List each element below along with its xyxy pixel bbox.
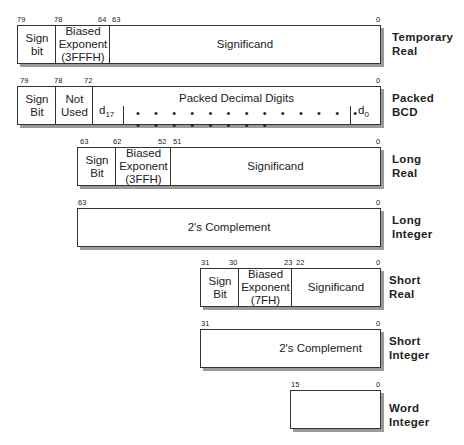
field-text: Bit xyxy=(25,106,48,119)
field-text: (7FH) xyxy=(241,294,290,307)
temporary-real-box: Signbit BiasedExponent(3FFFH) Significan… xyxy=(17,25,381,64)
bit-label-64: 64 xyxy=(98,16,106,24)
field-text: Exponent xyxy=(119,160,168,173)
short-real-box: SignBit BiasedExponent(7FH) Significand xyxy=(200,268,381,307)
bit-label-23: 23 xyxy=(284,259,292,267)
format-label: Temporary Real xyxy=(392,30,453,58)
digit-divider xyxy=(123,106,124,125)
bit-label-0: 0 xyxy=(376,259,380,267)
label-line: Short xyxy=(389,273,421,287)
bit-label-31: 31 xyxy=(201,259,209,267)
field-text: (3FFFH) xyxy=(59,51,108,64)
long-real-box: SignBit BiasedExponent(3FFH) Significand xyxy=(77,147,381,186)
significand-field: Significand xyxy=(171,148,380,185)
bit-label-0: 0 xyxy=(376,381,380,389)
sign-field: SignBit xyxy=(201,269,239,306)
digit-d17: d17 xyxy=(99,104,114,119)
label-line: Real xyxy=(389,287,421,301)
long-integer-box: 2's Complement xyxy=(77,208,381,247)
format-label: Short Integer xyxy=(389,334,429,362)
digit-divider xyxy=(350,106,351,125)
field-text: Bit xyxy=(208,288,231,301)
label-line: BCD xyxy=(392,105,434,119)
exponent-field: BiasedExponent(7FH) xyxy=(239,269,292,306)
field-text: Bit xyxy=(85,167,108,180)
format-label: Long Real xyxy=(392,152,421,180)
label-line: Short xyxy=(389,334,429,348)
bit-label-30: 30 xyxy=(229,259,237,267)
bit-label-78: 78 xyxy=(54,77,62,85)
field-text: Significand xyxy=(247,160,303,173)
bit-label-72: 72 xyxy=(84,77,92,85)
sign-field: Signbit xyxy=(18,26,56,63)
field-text: 0 xyxy=(364,110,368,119)
significand-field: Significand xyxy=(110,26,380,63)
bit-label-63: 63 xyxy=(78,199,86,207)
label-line: Long xyxy=(392,213,432,227)
field-text: Used xyxy=(61,106,88,119)
bit-label-22: 22 xyxy=(296,259,304,267)
field-text: Sign xyxy=(25,32,48,45)
digit-d0: d0 xyxy=(358,104,369,119)
bit-label-63: 63 xyxy=(80,138,88,146)
label-line: Integer xyxy=(392,227,432,241)
label-line: Integer xyxy=(389,348,429,362)
bit-label-0: 0 xyxy=(376,320,380,328)
bit-label-62: 62 xyxy=(113,138,121,146)
label-line: Word xyxy=(389,401,429,415)
bit-label-31: 31 xyxy=(201,320,209,328)
label-line: Real xyxy=(392,166,421,180)
format-label: Long Integer xyxy=(392,213,432,241)
exponent-field: BiasedExponent(3FFFH) xyxy=(56,26,110,63)
field-text: Not xyxy=(61,93,88,106)
field-text: 2's Complement xyxy=(188,221,271,234)
ellipsis-dots: • • • • • • • • • • • • • • • • • • • • … xyxy=(136,107,380,131)
format-label: Packed BCD xyxy=(392,91,434,119)
twos-complement-field: 2's Complement xyxy=(78,209,380,246)
packed-bcd-box: SignBit NotUsed Packed Decimal Digits d1… xyxy=(17,86,381,125)
field-text: Exponent xyxy=(59,38,108,51)
bit-label-63: 63 xyxy=(112,16,120,24)
label-line: Packed xyxy=(392,91,434,105)
sign-field: SignBit xyxy=(18,87,56,124)
bit-label-0: 0 xyxy=(376,138,380,146)
packed-digits-field: Packed Decimal Digits d17 • • • • • • • … xyxy=(93,87,380,124)
bit-label-51: 51 xyxy=(173,138,181,146)
not-used-field: NotUsed xyxy=(56,87,93,124)
significand-field: Significand xyxy=(292,269,380,306)
bit-label-79: 79 xyxy=(20,77,28,85)
field-text: Biased xyxy=(241,268,290,281)
field-text: Exponent xyxy=(241,281,290,294)
field-text: (3FFH) xyxy=(119,173,168,186)
field-text: Packed Decimal Digits xyxy=(93,92,380,104)
field-text: Sign xyxy=(208,275,231,288)
label-line: Integer xyxy=(389,415,429,429)
label-line: Real xyxy=(392,44,453,58)
field-text: Significand xyxy=(308,281,364,294)
short-integer-box: 2's Complement xyxy=(200,329,381,368)
field-text: Biased xyxy=(59,25,108,38)
bit-label-0: 0 xyxy=(376,77,380,85)
word-integer-box xyxy=(290,390,381,429)
bit-label-0: 0 xyxy=(376,16,380,24)
field-text: 17 xyxy=(105,110,114,119)
format-label: Short Real xyxy=(389,273,421,301)
field-text: bit xyxy=(25,45,48,58)
bit-label-79: 79 xyxy=(17,16,25,24)
field-text: Biased xyxy=(119,147,168,160)
field-text: 2's Complement xyxy=(279,342,362,355)
format-label: Word Integer xyxy=(389,401,429,429)
bit-label-15: 15 xyxy=(291,381,299,389)
field-text: Sign xyxy=(25,93,48,106)
exponent-field: BiasedExponent(3FFH) xyxy=(116,148,171,185)
bit-label-78: 78 xyxy=(54,16,62,24)
field-text: Sign xyxy=(85,154,108,167)
label-line: Temporary xyxy=(392,30,453,44)
label-line: Long xyxy=(392,152,421,166)
bit-label-0: 0 xyxy=(376,199,380,207)
field-text: Significand xyxy=(217,38,273,51)
sign-field: SignBit xyxy=(78,148,116,185)
twos-complement-field: 2's Complement xyxy=(261,330,380,367)
bit-label-52: 52 xyxy=(158,138,166,146)
